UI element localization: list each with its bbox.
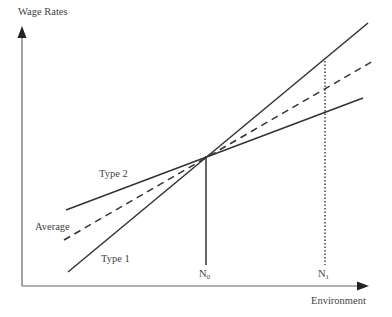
y-axis-arrow-icon [18, 26, 27, 38]
diagram-canvas [0, 0, 392, 317]
x-axis-label: Environment [311, 295, 366, 306]
n0-label: N0 [199, 268, 210, 281]
type2-line [66, 98, 363, 210]
n1-label: N1 [318, 268, 329, 281]
y-axis-label: Wage Rates [18, 6, 68, 17]
n0-label-base: N [199, 268, 207, 279]
n0-label-sub: 0 [207, 273, 211, 281]
average-label: Average [35, 221, 70, 232]
x-axis-arrow-icon [357, 282, 369, 291]
type2-label: Type 2 [99, 168, 128, 179]
type1-label: Type 1 [101, 253, 130, 264]
n1-label-sub: 1 [326, 273, 330, 281]
type1-line [68, 23, 368, 272]
average-line [64, 61, 373, 240]
n1-label-base: N [318, 268, 326, 279]
